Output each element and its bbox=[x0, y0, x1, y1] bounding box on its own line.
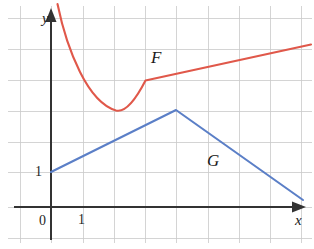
curve-label-g: G bbox=[207, 152, 219, 169]
x-tick-label-1: 1 bbox=[78, 213, 85, 227]
x-axis-label: x bbox=[295, 213, 302, 228]
y-axis-label: y bbox=[42, 11, 49, 26]
curve-label-f: F bbox=[151, 49, 161, 66]
origin-tick-label: 0 bbox=[39, 214, 46, 228]
figure-container: y x 0 1 1 F G bbox=[0, 0, 314, 249]
y-tick-label-1: 1 bbox=[35, 165, 42, 179]
plot-canvas bbox=[0, 0, 314, 249]
plot-background bbox=[0, 0, 314, 249]
